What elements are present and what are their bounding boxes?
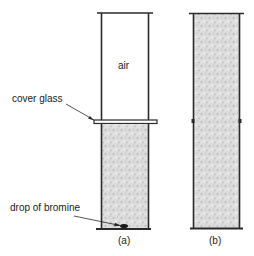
bromine-drop xyxy=(120,224,128,228)
tube-b-jar xyxy=(189,13,244,229)
label-panel-b: (b) xyxy=(209,236,221,246)
diffusion-diagram: air cover glass drop of bromine (a) (b) xyxy=(0,0,254,256)
label-air: air xyxy=(118,61,129,71)
joint-bump-right xyxy=(239,119,242,123)
label-panel-a: (a) xyxy=(118,236,130,246)
label-drop-of-bromine: drop of bromine xyxy=(10,203,80,213)
joint-bump-left xyxy=(192,119,195,123)
cover-glass xyxy=(94,120,157,124)
tube-a-lower-jar xyxy=(96,124,151,229)
diagram-drawing xyxy=(0,0,254,256)
label-cover-glass: cover glass xyxy=(12,94,63,104)
